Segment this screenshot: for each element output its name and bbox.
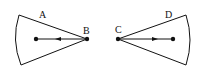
left-sector: A B bbox=[15, 9, 90, 65]
label-a: A bbox=[39, 9, 47, 20]
label-c: C bbox=[115, 24, 122, 35]
left-center-dot bbox=[34, 37, 38, 41]
left-arrowhead-icon bbox=[55, 37, 61, 41]
label-d: D bbox=[165, 9, 172, 20]
right-center-dot bbox=[171, 37, 175, 41]
right-arrowhead-icon bbox=[152, 37, 158, 41]
point-b-dot bbox=[85, 37, 89, 41]
left-sector-outline bbox=[15, 15, 87, 65]
label-b: B bbox=[83, 25, 90, 36]
right-sector: C D bbox=[115, 9, 190, 65]
sector-diagram: A B C D bbox=[0, 0, 199, 81]
point-c-dot bbox=[116, 37, 120, 41]
